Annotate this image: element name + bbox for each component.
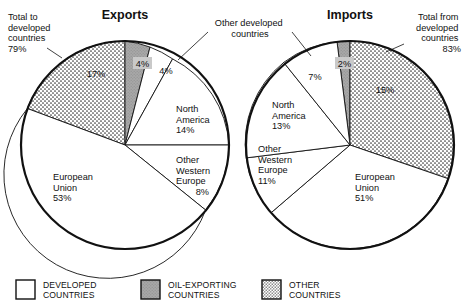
figure-root: Exports Imports 17% 4% 4% North Americ [0,0,469,303]
leader-line-exports-total [47,48,62,58]
label-imports-oil-exporting: 2% [338,59,351,69]
legend-swatch-developed-countries[interactable] [16,280,35,299]
label-imports-other-developed: 7% [308,72,321,82]
leader-line-exports-other-developed [178,32,208,60]
legend-label-developed-countries: DEVELOPED COUNTRIES [43,280,99,300]
callout-imports-total: Total from developed countries 83% [416,12,461,54]
legend-label-oil-exporting-countries: OIL-EXPORTING COUNTRIES [168,280,239,300]
legend-swatch-other-countries[interactable] [262,280,281,299]
label-exports-oil-exporting: 4% [136,59,149,69]
callout-exports-total: Total to developed countries 79% [8,12,53,54]
legend: DEVELOPED COUNTRIES OIL-EXPORTING COUNTR… [16,280,341,300]
trade-pie-figure: Exports Imports 17% 4% 4% North Americ [0,0,469,303]
legend-swatch-oil-exporting-countries[interactable] [141,280,160,299]
label-exports-other-countries: 17% [87,69,105,79]
label-exports-other-developed: 4% [159,66,172,76]
chart-title-imports: Imports [327,8,373,22]
callout-other-developed: Other developed countries [215,18,286,39]
legend-label-other-countries: OTHER COUNTRIES [289,280,341,300]
chart-title-exports: Exports [102,8,149,22]
label-imports-other-countries: 15% [376,85,394,95]
